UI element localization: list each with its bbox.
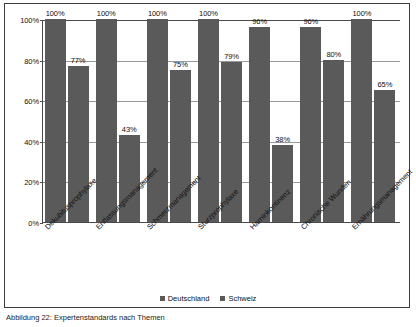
x-axis-tick-labels: DekubitusprophylaxeEntlassungsmanagement… (42, 225, 400, 287)
bar: 100% (45, 19, 66, 222)
chart-frame: 0%20%40%60%80%100% 100%77%100%43%100%75%… (4, 3, 410, 308)
bar-value-label: 65% (378, 80, 393, 89)
legend-label: Schweiz (228, 294, 256, 303)
bar-value-label: 100% (148, 9, 167, 18)
bar-value-label: 96% (303, 17, 318, 26)
bar-value-label: 77% (71, 56, 86, 65)
bar-value-label: 100% (97, 9, 116, 18)
chart-legend: DeutschlandSchweiz (5, 294, 411, 303)
bar: 100% (147, 19, 168, 222)
bar-value-label: 100% (199, 9, 218, 18)
bar-value-label: 75% (173, 60, 188, 69)
bar-value-label: 43% (122, 125, 137, 134)
legend-entry: Deutschland (160, 294, 210, 303)
bar: 96% (249, 27, 270, 222)
plot-area: 0%20%40%60%80%100% 100%77%100%43%100%75%… (42, 20, 400, 223)
y-axis-tick-label: 80% (24, 56, 39, 65)
figure-container: 0%20%40%60%80%100% 100%77%100%43%100%75%… (0, 0, 416, 327)
bar: 100% (198, 19, 219, 222)
y-axis-tick-label: 60% (24, 97, 39, 106)
y-axis-tick-label: 100% (20, 16, 39, 25)
legend-swatch-icon (160, 296, 165, 301)
bar-value-label: 100% (353, 9, 372, 18)
figure-caption: Abbildung 22: Expertenstandards nach The… (6, 313, 410, 322)
bars-layer: 100%77%100%43%100%75%100%79%96%38%96%80%… (43, 20, 400, 222)
bar: 100% (96, 19, 117, 222)
bar-value-label: 100% (46, 9, 65, 18)
bar: 100% (351, 19, 372, 222)
bar-value-label: 96% (252, 17, 267, 26)
bar-value-label: 80% (326, 50, 341, 59)
bar-value-label: 79% (224, 52, 239, 61)
bar-value-label: 38% (275, 135, 290, 144)
legend-label: Deutschland (168, 294, 210, 303)
y-axis-tick-label: 40% (24, 137, 39, 146)
legend-swatch-icon (220, 296, 225, 301)
bar: 96% (300, 27, 321, 222)
y-axis-tick-label: 20% (24, 178, 39, 187)
y-axis-tick-label: 0% (28, 219, 39, 228)
bar-group: 100%79% (196, 20, 247, 222)
legend-entry: Schweiz (220, 294, 256, 303)
